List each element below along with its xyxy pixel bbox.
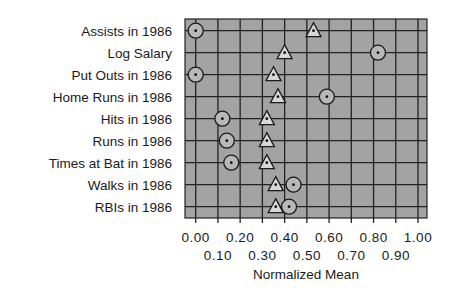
marker-center-dot	[325, 95, 328, 98]
marker-center-dot	[265, 139, 268, 142]
marker-center-dot	[265, 161, 268, 164]
dot-plot: Assists in 1986Log SalaryPut Outs in 198…	[0, 0, 452, 300]
marker-center-dot	[292, 183, 295, 186]
y-axis-label: Put Outs in 1986	[71, 68, 172, 83]
y-axis-label: Hits in 1986	[101, 112, 172, 127]
marker-center-dot	[221, 117, 224, 120]
marker-center-dot	[194, 73, 197, 76]
x-tick-label: 0.20	[226, 230, 254, 245]
x-tick-label: 0.30	[248, 248, 276, 263]
x-tick-label: 0.50	[293, 248, 321, 263]
y-axis-label: Log Salary	[107, 46, 172, 61]
x-tick-label: 0.80	[359, 230, 387, 245]
marker-center-dot	[265, 117, 268, 120]
x-tick-label: 0.60	[315, 230, 343, 245]
y-axis-label: RBIs in 1986	[95, 200, 172, 215]
y-axis-label: Times at Bat in 1986	[49, 156, 172, 171]
marker-center-dot	[283, 51, 286, 54]
marker-center-dot	[274, 183, 277, 186]
marker-center-dot	[225, 139, 228, 142]
x-tick-label: 0.90	[382, 248, 410, 263]
y-axis-label: Assists in 1986	[81, 24, 172, 39]
x-axis-title: Normalized Mean	[253, 267, 359, 282]
x-axis-ticks: 0.000.200.400.600.801.000.100.300.500.70…	[182, 230, 433, 263]
y-axis-label: Runs in 1986	[92, 134, 172, 149]
x-tick-label: 0.10	[204, 248, 232, 263]
marker-center-dot	[312, 29, 315, 32]
marker-center-dot	[377, 51, 380, 54]
x-tick-label: 1.00	[404, 230, 432, 245]
marker-center-dot	[194, 29, 197, 32]
x-tick-label: 0.40	[270, 230, 298, 245]
marker-center-dot	[277, 95, 280, 98]
y-axis-labels: Assists in 1986Log SalaryPut Outs in 198…	[49, 24, 173, 215]
y-axis-label: Walks in 1986	[88, 178, 172, 193]
marker-center-dot	[230, 161, 233, 164]
x-tick-label: 0.70	[337, 248, 365, 263]
marker-center-dot	[274, 205, 277, 208]
y-axis-label: Home Runs in 1986	[53, 90, 172, 105]
marker-center-dot	[288, 205, 291, 208]
x-tick-label: 0.00	[182, 230, 210, 245]
marker-center-dot	[272, 73, 275, 76]
